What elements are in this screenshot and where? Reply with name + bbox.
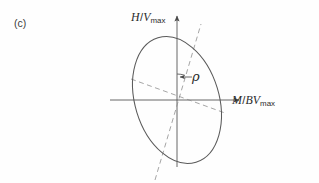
major-axis-dashed-line (155, 24, 201, 180)
x-axis-label: M/BVmax (232, 95, 275, 108)
y-axis-numerator: H (131, 10, 140, 24)
x-axis-subscript: max (260, 99, 275, 108)
y-axis-label: H/Vmax (131, 12, 165, 25)
y-axis-subscript: max (151, 16, 166, 25)
y-axis-denominator: V (143, 10, 150, 24)
x-axis-numerator: M (232, 93, 242, 107)
panel-label: (c) (14, 18, 26, 29)
rho-symbol: ρ (192, 69, 200, 84)
figure-canvas (0, 0, 319, 183)
rho-angle-label: ρ (192, 70, 200, 84)
angle-arc (177, 74, 185, 75)
figure-panel-c: (c) H/Vmax M/BVmax ρ (0, 0, 319, 183)
x-axis-denominator: BV (246, 93, 261, 107)
minor-axis-dashed-line (131, 79, 225, 113)
